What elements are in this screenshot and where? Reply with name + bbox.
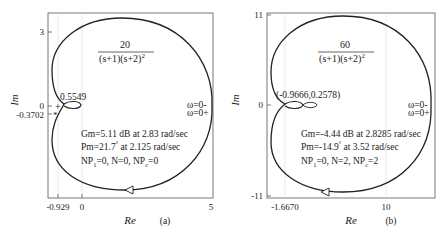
x-axis-label: Re [123,214,136,226]
nyquist-small-loop [285,101,303,108]
encirclement-text: NP1=0, N=0, NPc=0 [81,156,158,168]
xtick-label: 10 [382,202,392,212]
crossing-label: (-0.9666,0.2578) [276,90,340,101]
xtick-label: 0 [80,202,85,212]
nyquist-plot-b: 60 (s+1)(s+2)2 (-0.9666,0.2578) ω=0- ω=0… [221,0,442,236]
tf-numerator: 60 [340,39,350,50]
xtick-label: 5 [209,202,214,212]
svg-text:(s+1)(s+2)2: (s+1)(s+2)2 [99,52,145,65]
tf-denominator: (s+1)(s+2) [99,53,141,65]
tf-numerator: 20 [120,39,130,50]
encirclement-text: NP1=0, N=2, NPc=2 [301,156,378,168]
panel-label: (b) [385,216,396,227]
ytick-label: -0.3702 [16,110,44,120]
y-axis-label: Im [229,94,241,107]
panel-label: (a) [160,216,171,227]
direction-arrow-icon [321,188,329,196]
svg-text:Pm=-14.9° at 3.52 rad/sec: Pm=-14.9° at 3.52 rad/sec [301,141,399,152]
ytick-label: 11 [254,10,263,20]
direction-arrow-icon [125,186,133,194]
y-axis-label: Im [8,94,20,107]
nyquist-small-loop [64,101,81,108]
plot-b-canvas: 60 (s+1)(s+2)2 (-0.9666,0.2578) ω=0- ω=0… [221,0,442,236]
svg-text:(s+1)(s+2)2: (s+1)(s+2)2 [319,52,365,65]
ytick-label: -11 [251,191,263,201]
plot-a-canvas: + * 20 (s+1)(s+2)2 0.5549 ω=0- ω=0+ Gm=5… [0,0,221,236]
crossing-label: 0.5549 [60,92,86,102]
nyquist-plot-a: + * 20 (s+1)(s+2)2 0.5549 ω=0- ω=0+ Gm=5… [0,0,221,236]
svg-text:Pm=21.7° at 2.125 rad/sec: Pm=21.7° at 2.125 rad/sec [81,141,180,152]
gain-margin-text: Gm=-4.44 dB at 2.8285 rad/sec [301,129,421,139]
phase-margin-text: Pm=-14.9 [301,142,339,152]
omega-0-plus-label: ω=0+ [187,108,209,118]
x-axis-label: Re [344,214,357,226]
crossing-marker: * [53,110,58,120]
xtick-label: -0.929 [46,202,70,212]
gain-margin-text: Gm=5.11 dB at 2.83 rad/sec [81,129,188,139]
ytick-label: 0 [259,100,264,110]
xtick-label: -1.6670 [271,202,299,212]
ytick-label: 3 [40,27,45,37]
tf-denominator: (s+1)(s+2) [319,53,361,65]
omega-0-plus-label: ω=0+ [408,108,430,118]
phase-margin-text: Pm=21.7 [81,142,116,152]
nyquist-inner-loop [303,102,317,107]
